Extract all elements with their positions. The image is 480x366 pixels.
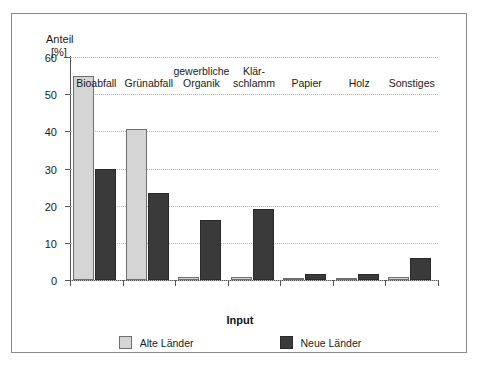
bar-group bbox=[70, 57, 123, 280]
x-tick bbox=[175, 280, 176, 286]
x-tick bbox=[438, 280, 439, 286]
bar bbox=[178, 277, 199, 280]
bar bbox=[305, 274, 326, 280]
bar bbox=[126, 129, 147, 280]
y-tick-label: 20 bbox=[45, 201, 57, 213]
bar bbox=[388, 277, 409, 280]
y-tick-label: 30 bbox=[45, 164, 57, 176]
legend-swatch bbox=[119, 336, 132, 349]
x-tick bbox=[228, 280, 229, 286]
bar bbox=[148, 193, 169, 280]
bar bbox=[336, 278, 357, 281]
bar bbox=[73, 76, 94, 280]
y-tick-label: 40 bbox=[45, 126, 57, 138]
bar bbox=[95, 169, 116, 280]
x-category-label-line: Klär- bbox=[221, 65, 287, 77]
bar-group bbox=[228, 57, 281, 280]
x-axis-title: Input bbox=[12, 314, 468, 326]
gridline bbox=[70, 280, 438, 281]
bar-group bbox=[385, 57, 438, 280]
x-tick bbox=[333, 280, 334, 286]
x-category-label-line: Sonstiges bbox=[379, 77, 445, 89]
legend-entry: Neue Länder bbox=[280, 336, 362, 349]
bar-group bbox=[333, 57, 386, 280]
y-tick-label: 50 bbox=[45, 89, 57, 101]
legend-swatch bbox=[280, 336, 293, 349]
y-tick-label: 0 bbox=[51, 275, 57, 287]
legend-label: Neue Länder bbox=[301, 337, 362, 349]
y-tick-label: 60 bbox=[45, 52, 57, 64]
x-tick bbox=[385, 280, 386, 286]
plot-area: 0102030405060 BioabfallGrünabfallgewerbl… bbox=[70, 57, 438, 280]
bar-group bbox=[175, 57, 228, 280]
chart-figure: Anteil [%] 0102030405060 BioabfallGrünab… bbox=[11, 13, 467, 353]
legend-entry: Alte Länder bbox=[119, 336, 194, 349]
x-tick bbox=[123, 280, 124, 286]
x-tick bbox=[70, 280, 71, 286]
bar bbox=[358, 274, 379, 280]
x-tick bbox=[280, 280, 281, 286]
bar bbox=[410, 258, 431, 280]
bar-group bbox=[280, 57, 333, 280]
y-axis-title-text: Anteil bbox=[46, 33, 74, 45]
bar bbox=[283, 278, 304, 281]
bar bbox=[231, 277, 252, 280]
bar bbox=[200, 220, 221, 280]
y-tick-label: 10 bbox=[45, 238, 57, 250]
legend-label: Alte Länder bbox=[140, 337, 194, 349]
bar-group bbox=[123, 57, 176, 280]
bar bbox=[253, 209, 274, 280]
chart-legend: Alte LänderNeue Länder bbox=[12, 336, 468, 349]
x-category-label: Sonstiges bbox=[379, 77, 445, 89]
